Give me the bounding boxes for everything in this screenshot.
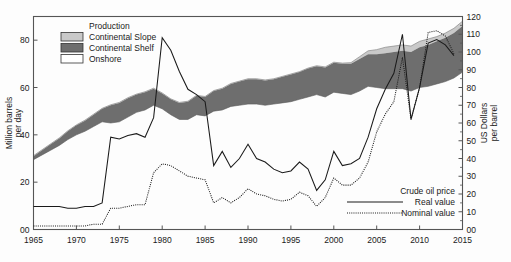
y2-tick-label: 20	[467, 189, 477, 199]
y-tick-label: 80	[20, 35, 30, 45]
legend-label-continental-shelf: Continental Shelf	[89, 43, 154, 53]
x-tick-label: 1990	[239, 235, 258, 245]
y2-axis-title-line2: per barrel	[489, 105, 499, 141]
x-tick-label: 2005	[367, 235, 386, 245]
y-tick-label: 60	[20, 83, 30, 93]
oil-production-and-price-chart: 1965197019751980198519901995200020052010…	[0, 0, 511, 262]
x-tick-label: 1970	[67, 235, 86, 245]
y-tick-label: 20	[20, 177, 30, 187]
x-tick-label: 1975	[110, 235, 129, 245]
legend-label-continental-slope: Continental Slope	[89, 32, 156, 42]
x-tick-label: 1965	[24, 235, 43, 245]
y2-tick-label: 70	[467, 100, 477, 110]
x-tick-label: 1995	[281, 235, 300, 245]
x-tick-label: 1985	[196, 235, 215, 245]
legend-swatch-onshore	[61, 55, 83, 64]
y2-tick-label: 40	[467, 154, 477, 164]
legend-swatch-continental-slope	[61, 33, 83, 42]
y2-tick-label: 10	[467, 207, 477, 217]
legend-swatch-continental-shelf	[61, 44, 83, 53]
legend-production-title: Production	[89, 21, 130, 31]
y2-tick-label: 60	[467, 118, 477, 128]
y2-tick-label: 30	[467, 171, 477, 181]
x-tick-label: 1980	[153, 235, 172, 245]
y-tick-label: 00	[20, 225, 30, 235]
legend-label-nominal-value: Nominal value	[401, 208, 455, 218]
x-tick-label: 2000	[324, 235, 343, 245]
y2-axis-title-line1: US Dollars	[479, 103, 489, 144]
y-axis-title-line1: Million barrels	[4, 97, 14, 149]
y2-tick-label: 120	[467, 12, 481, 22]
legend-label-onshore: Onshore	[89, 54, 122, 64]
y-axis-title-line2: per day	[13, 108, 23, 137]
legend-label-real-value: Real value	[415, 197, 455, 207]
x-tick-label: 2010	[410, 235, 429, 245]
y2-tick-label: 00	[467, 225, 477, 235]
y2-tick-label: 80	[467, 83, 477, 93]
chart-canvas: 1965197019751980198519901995200020052010…	[0, 0, 511, 262]
legend-price-title: Crude oil price	[400, 186, 455, 196]
y2-tick-label: 110	[467, 29, 481, 39]
y2-tick-label: 100	[467, 47, 481, 57]
y2-tick-label: 90	[467, 65, 477, 75]
x-tick-label: 2015	[453, 235, 472, 245]
y2-tick-label: 50	[467, 136, 477, 146]
